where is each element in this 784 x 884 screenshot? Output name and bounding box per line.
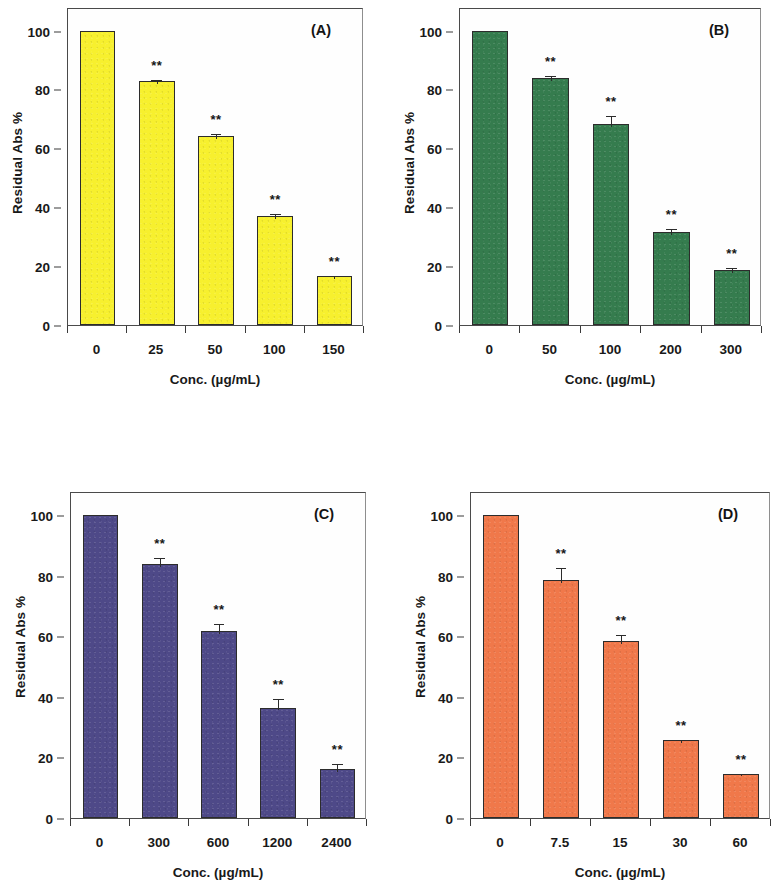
- y-tick-mark: [457, 576, 464, 577]
- chart-panel-c: Residual Abs %020406080100********(C)030…: [0, 442, 392, 884]
- y-tick-label: 40: [35, 201, 50, 216]
- x-tick-mark: [590, 819, 591, 826]
- y-tick-mark: [446, 31, 453, 32]
- significance-annotation: **: [675, 722, 686, 730]
- x-tick-label: 25: [148, 342, 163, 357]
- error-bar-cap: [666, 229, 677, 230]
- bar: [593, 124, 629, 325]
- x-tick-mark: [580, 326, 581, 333]
- error-bar-cap: [273, 699, 284, 700]
- bar: [201, 631, 237, 818]
- chart-panel-d: Residual Abs %020406080100********(D)07.…: [392, 442, 784, 884]
- y-axis-ticks: 020406080100: [25, 8, 61, 326]
- bar: [139, 81, 175, 325]
- x-tick-label: 0: [496, 835, 504, 850]
- x-tick-mark: [459, 326, 460, 333]
- bar: [663, 740, 699, 818]
- y-axis-ticks: 020406080100: [28, 492, 64, 819]
- x-tick-label: 50: [207, 342, 222, 357]
- x-axis-title: Conc. (µg/mL): [170, 372, 260, 387]
- y-tick-label: 100: [27, 24, 50, 39]
- significance-annotation: **: [615, 617, 626, 625]
- panel-letter: (D): [718, 506, 738, 522]
- x-tick-mark: [470, 819, 471, 826]
- bar: [257, 216, 293, 325]
- y-tick-mark: [54, 31, 61, 32]
- y-tick-label: 20: [427, 260, 442, 275]
- error-bar-cap: [211, 134, 222, 135]
- y-tick-label: 20: [35, 260, 50, 275]
- x-tick-mark: [126, 326, 127, 333]
- x-tick-mark: [307, 819, 308, 826]
- y-tick-mark: [57, 697, 64, 698]
- x-tick-mark: [650, 819, 651, 826]
- y-tick-mark: [57, 637, 64, 638]
- y-tick-mark: [457, 516, 464, 517]
- y-tick-label: 0: [42, 319, 50, 334]
- x-tick-mark: [185, 326, 186, 333]
- plot-inner: ********: [460, 9, 760, 325]
- significance-annotation: **: [555, 550, 566, 558]
- y-tick-mark: [446, 267, 453, 268]
- y-tick-label: 80: [35, 83, 50, 98]
- x-axis-title: Conc. (µg/mL): [565, 372, 655, 387]
- panel-letter: (C): [314, 506, 334, 522]
- y-tick-label: 40: [427, 201, 442, 216]
- plot-inner: ********: [471, 493, 769, 818]
- y-tick-label: 100: [30, 509, 53, 524]
- y-tick-label: 80: [427, 83, 442, 98]
- x-tick-label: 0: [93, 342, 101, 357]
- error-bar: [219, 624, 220, 634]
- significance-annotation: **: [154, 540, 165, 548]
- error-bar-cap: [332, 764, 343, 765]
- y-tick-label: 60: [438, 630, 453, 645]
- x-tick-label: 200: [659, 342, 682, 357]
- y-tick-label: 40: [38, 690, 53, 705]
- error-bar-cap: [726, 268, 737, 269]
- error-bar-cap: [545, 76, 556, 77]
- y-tick-mark: [54, 326, 61, 327]
- panel-letter: (A): [311, 22, 331, 38]
- x-tick-label: 2400: [321, 835, 351, 850]
- x-tick-mark: [366, 819, 367, 826]
- y-tick-label: 0: [445, 812, 453, 827]
- x-tick-label: 100: [263, 342, 286, 357]
- x-tick-label: 7.5: [551, 835, 570, 850]
- error-bar-cap: [151, 80, 162, 81]
- chart-panel-b: Residual Abs %020406080100********(B)050…: [392, 0, 784, 442]
- significance-annotation: **: [605, 98, 616, 106]
- error-bar: [611, 116, 612, 126]
- x-tick-mark: [770, 819, 771, 826]
- plot-area: ********: [459, 8, 761, 326]
- significance-annotation: **: [666, 211, 677, 219]
- y-tick-mark: [457, 819, 464, 820]
- plot-inner: ********: [71, 493, 365, 818]
- y-tick-label: 100: [419, 24, 442, 39]
- error-bar-cap: [270, 214, 281, 215]
- y-tick-label: 20: [438, 751, 453, 766]
- error-bar-cap: [556, 568, 567, 569]
- bar: [472, 31, 508, 325]
- panel-letter: (B): [709, 22, 729, 38]
- x-tick-label: 15: [612, 835, 627, 850]
- x-tick-mark: [519, 326, 520, 333]
- error-bar-cap: [606, 116, 617, 117]
- error-bar-cap: [154, 558, 165, 559]
- x-tick-mark: [245, 326, 246, 333]
- y-tick-mark: [457, 697, 464, 698]
- x-tick-mark: [248, 819, 249, 826]
- y-tick-label: 0: [45, 812, 53, 827]
- y-tick-label: 60: [38, 630, 53, 645]
- y-tick-mark: [446, 90, 453, 91]
- error-bar-cap: [616, 635, 627, 636]
- y-tick-mark: [54, 149, 61, 150]
- bar: [603, 641, 639, 818]
- bar: [142, 564, 178, 818]
- x-axis-title: Conc. (µg/mL): [575, 865, 665, 880]
- x-tick-label: 1200: [262, 835, 292, 850]
- x-tick-mark: [363, 326, 364, 333]
- y-axis-ticks: 020406080100: [428, 492, 464, 819]
- significance-annotation: **: [735, 756, 746, 764]
- y-tick-label: 100: [430, 509, 453, 524]
- y-tick-mark: [57, 576, 64, 577]
